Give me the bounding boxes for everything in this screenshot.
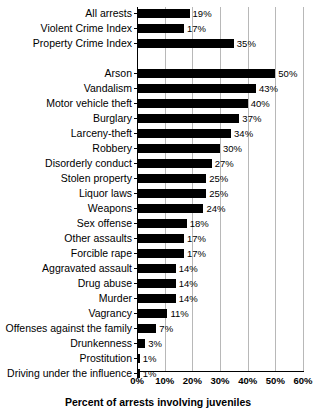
bar-row: Property Crime Index35% bbox=[137, 37, 303, 52]
bar-row: Weapons24% bbox=[137, 202, 303, 217]
bar-value-label: 30% bbox=[223, 142, 242, 155]
bar-row: Murder14% bbox=[137, 292, 303, 307]
bar-row: Disorderly conduct27% bbox=[137, 157, 303, 172]
bar-category-label: Property Crime Index bbox=[0, 37, 132, 50]
bar-row: Vandalism43% bbox=[137, 82, 303, 97]
bar-category-label: Motor vehicle theft bbox=[0, 97, 132, 110]
bar bbox=[137, 159, 212, 168]
bar bbox=[137, 39, 234, 48]
bar bbox=[137, 234, 184, 243]
bar-row: Arson50% bbox=[137, 67, 303, 82]
bar-category-label: Disorderly conduct bbox=[0, 157, 132, 170]
bar-value-label: 17% bbox=[187, 22, 206, 35]
bar bbox=[137, 339, 145, 348]
bar-row: Drug abuse14% bbox=[137, 277, 303, 292]
bar-value-label: 1% bbox=[143, 352, 157, 365]
bar-value-label: 19% bbox=[193, 7, 212, 20]
bar-row: Violent Crime Index17% bbox=[137, 22, 303, 37]
bar-row: Larceny-theft34% bbox=[137, 127, 303, 142]
bar-category-label: Robbery bbox=[0, 142, 132, 155]
bar-row: Liquor laws25% bbox=[137, 187, 303, 202]
plot-area: All arrests19%Violent Crime Index17%Prop… bbox=[137, 7, 303, 371]
bar-row: Drunkenness3% bbox=[137, 337, 303, 352]
bar-row: Robbery30% bbox=[137, 142, 303, 157]
bar-row: Other assaults17% bbox=[137, 232, 303, 247]
bar bbox=[137, 69, 275, 78]
x-axis-line bbox=[137, 371, 304, 372]
x-axis-tick-labels: 0%10%20%30%40%50%60% bbox=[0, 374, 316, 388]
bar bbox=[137, 294, 176, 303]
bar-row: Forcible rape17% bbox=[137, 247, 303, 262]
bar-row: Motor vehicle theft40% bbox=[137, 97, 303, 112]
bar-row: Burglary37% bbox=[137, 112, 303, 127]
bar bbox=[137, 354, 140, 363]
bar-category-label: Arson bbox=[0, 67, 132, 80]
bar bbox=[137, 129, 231, 138]
bar-value-label: 27% bbox=[215, 157, 234, 170]
bar-value-label: 17% bbox=[187, 232, 206, 245]
bar-category-label: Larceny-theft bbox=[0, 127, 132, 140]
bar-row: Offenses against the family7% bbox=[137, 322, 303, 337]
bar bbox=[137, 189, 206, 198]
bar-value-label: 40% bbox=[251, 97, 270, 110]
bar bbox=[137, 279, 176, 288]
bar-value-label: 17% bbox=[187, 247, 206, 260]
bar-value-label: 18% bbox=[190, 217, 209, 230]
bar-value-label: 37% bbox=[242, 112, 261, 125]
bar-value-label: 7% bbox=[159, 322, 173, 335]
bar bbox=[137, 249, 184, 258]
bar bbox=[137, 309, 167, 318]
bar-value-label: 50% bbox=[278, 67, 297, 80]
bar-category-label: Offenses against the family bbox=[0, 322, 132, 335]
bar-value-label: 34% bbox=[234, 127, 253, 140]
bar-value-label: 14% bbox=[179, 277, 198, 290]
bar-category-label: Stolen property bbox=[0, 172, 132, 185]
bar-row: Stolen property25% bbox=[137, 172, 303, 187]
bar-value-label: 11% bbox=[170, 307, 188, 320]
bar-row: Sex offense18% bbox=[137, 217, 303, 232]
bar-category-label: All arrests bbox=[0, 7, 132, 20]
bar-category-label: Vagrancy bbox=[0, 307, 132, 320]
bar-category-label: Aggravated assault bbox=[0, 262, 132, 275]
bar bbox=[137, 204, 203, 213]
bar-value-label: 3% bbox=[148, 337, 162, 350]
bar-category-label: Violent Crime Index bbox=[0, 22, 132, 35]
bar-row: Prostitution1% bbox=[137, 352, 303, 367]
bar-category-label: Burglary bbox=[0, 112, 132, 125]
bar-category-label: Drunkenness bbox=[0, 337, 132, 350]
bar-value-label: 43% bbox=[259, 82, 278, 95]
bar-category-label: Prostitution bbox=[0, 352, 132, 365]
juvenile-arrests-bar-chart: All arrests19%Violent Crime Index17%Prop… bbox=[0, 0, 316, 420]
bar bbox=[137, 24, 184, 33]
bar-row: Vagrancy11% bbox=[137, 307, 303, 322]
bar bbox=[137, 174, 206, 183]
bar bbox=[137, 264, 176, 273]
bar-category-label: Murder bbox=[0, 292, 132, 305]
bar bbox=[137, 114, 239, 123]
bar bbox=[137, 84, 256, 93]
x-axis-tick-label: 60% bbox=[283, 374, 316, 387]
bar bbox=[137, 99, 248, 108]
bar-value-label: 24% bbox=[206, 202, 225, 215]
bar bbox=[137, 9, 190, 18]
bar bbox=[137, 144, 220, 153]
bar-category-label: Weapons bbox=[0, 202, 132, 215]
bar-category-label: Forcible rape bbox=[0, 247, 132, 260]
bar-category-label: Other assaults bbox=[0, 232, 132, 245]
bar-value-label: 14% bbox=[179, 292, 198, 305]
bar bbox=[137, 219, 187, 228]
bar-category-label: Sex offense bbox=[0, 217, 132, 230]
bar-value-label: 25% bbox=[209, 187, 228, 200]
bar bbox=[137, 324, 156, 333]
bar-category-label: Drug abuse bbox=[0, 277, 132, 290]
bar-row: Aggravated assault14% bbox=[137, 262, 303, 277]
bar-value-label: 35% bbox=[237, 37, 256, 50]
bar-row: All arrests19% bbox=[137, 7, 303, 22]
gridline-60 bbox=[303, 7, 304, 371]
x-axis-title: Percent of arrests involving juveniles bbox=[0, 395, 316, 409]
bar-category-label: Liquor laws bbox=[0, 187, 132, 200]
bar-value-label: 14% bbox=[179, 262, 198, 275]
bar-value-label: 25% bbox=[209, 172, 228, 185]
bar-category-label: Vandalism bbox=[0, 82, 132, 95]
